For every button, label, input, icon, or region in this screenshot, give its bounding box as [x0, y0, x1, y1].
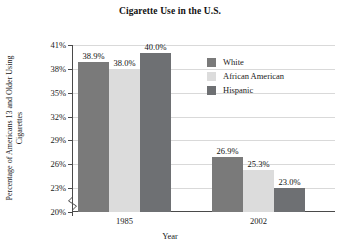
y-axis-tick — [68, 188, 73, 189]
y-axis-tick-label: 35% — [50, 88, 66, 98]
chart-title: Cigarette Use in the U.S. — [0, 6, 340, 16]
chart-figure: Cigarette Use in the U.S. Percentage of … — [0, 0, 340, 245]
x-axis-group-label: 2002 — [250, 216, 267, 226]
y-axis-tick-label: 26% — [50, 159, 66, 169]
bar: 40.0% — [140, 53, 171, 212]
bar-value-label: 26.9% — [217, 146, 239, 156]
legend-item: Hispanic — [207, 83, 327, 97]
y-axis-tick-label: 29% — [50, 135, 66, 145]
y-axis-tick — [68, 45, 73, 46]
legend-label: Hispanic — [223, 85, 253, 95]
y-axis-tick — [68, 117, 73, 118]
bar: 23.0% — [274, 188, 305, 212]
x-axis-title: Year — [0, 231, 340, 241]
y-axis-tick — [68, 164, 73, 165]
y-axis-tick-label: 20% — [50, 207, 66, 217]
bar-value-label: 25.3% — [248, 159, 270, 169]
legend-swatch-icon — [207, 86, 216, 95]
y-axis-tick-label: 41% — [50, 40, 66, 50]
gridline — [72, 45, 335, 46]
y-axis-tick — [68, 140, 73, 141]
legend-label: White — [223, 57, 244, 67]
legend-label: African American — [223, 71, 284, 81]
chart-legend: WhiteAfrican AmericanHispanic — [207, 55, 327, 97]
bar-value-label: 38.9% — [83, 51, 105, 61]
legend-item: African American — [207, 69, 327, 83]
legend-item: White — [207, 55, 327, 69]
y-axis-tick — [68, 93, 73, 94]
bar-value-label: 38.0% — [114, 58, 136, 68]
legend-swatch-icon — [207, 58, 216, 67]
bar: 25.3% — [243, 170, 274, 212]
legend-swatch-icon — [207, 72, 216, 81]
y-axis-tick-label: 32% — [50, 112, 66, 122]
bar: 26.9% — [212, 157, 243, 212]
bar-value-label: 40.0% — [145, 42, 167, 52]
y-axis-title-container: Percentage of Americans 13 and Older Usi… — [4, 40, 26, 215]
axis-break-icon — [67, 190, 78, 216]
y-axis-tick-label: 23% — [50, 183, 66, 193]
y-axis-tick-label: 38% — [50, 64, 66, 74]
y-axis-tick — [68, 69, 73, 70]
bar-value-label: 23.0% — [279, 177, 301, 187]
bar: 38.9% — [78, 62, 109, 212]
bar: 38.0% — [109, 69, 140, 212]
y-axis-title: Percentage of Americans 13 and Older Usi… — [4, 40, 26, 216]
x-axis-group-label: 1985 — [116, 216, 133, 226]
